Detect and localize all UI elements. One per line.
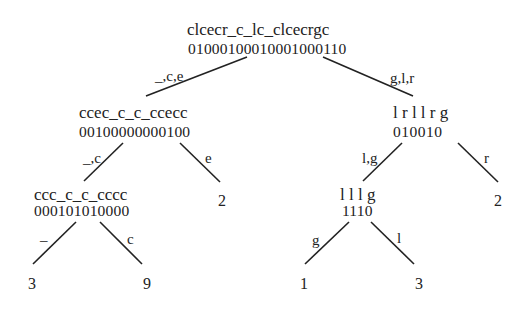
root-bits: 01000100010001000110: [188, 41, 346, 57]
edge-label-right-left: l,g: [362, 151, 377, 166]
left-node-sequence: ccec_c_c_ccecc: [79, 104, 188, 121]
edge-right-right: [458, 143, 498, 182]
leaf-count-l: 3: [415, 276, 423, 292]
edge-label-ll-left: _: [40, 228, 48, 243]
ll-node-sequence: ccc_c_c_cccc: [34, 186, 127, 203]
right-node-sequence: l r l l r g: [393, 104, 448, 121]
edge-label-rl-left: g: [312, 233, 320, 248]
edge-label-root-right: g,l,r: [390, 71, 414, 86]
edge-left-right: [180, 143, 220, 182]
rl-node-sequence: l l l g: [340, 186, 375, 203]
edge-ll-right: [100, 222, 142, 264]
right-node-bits: 010010: [393, 124, 443, 140]
leaf-count-r: 2: [494, 193, 502, 209]
rl-node-bits: 1110: [342, 203, 373, 219]
edge-label-right-right: r: [484, 151, 489, 166]
edge-label-rl-right: l: [397, 231, 401, 246]
left-node-bits: 00100000000100: [79, 124, 190, 140]
edge-label-ll-right: c: [127, 232, 134, 247]
root-sequence: clcecr_c_lc_clcecrgc: [187, 21, 329, 38]
leaf-count-c: 9: [143, 276, 151, 292]
ll-node-bits: 000101010000: [34, 203, 129, 219]
edge-label-left-left: _,c: [83, 151, 101, 166]
leaf-count-underscore: 3: [28, 276, 36, 292]
leaf-count-e: 2: [218, 193, 226, 209]
edge-rl-right: [371, 222, 414, 264]
edge-label-root-left: _,c,e: [155, 69, 183, 84]
edge-label-left-right: e: [205, 151, 212, 166]
leaf-count-g: 1: [300, 276, 308, 292]
